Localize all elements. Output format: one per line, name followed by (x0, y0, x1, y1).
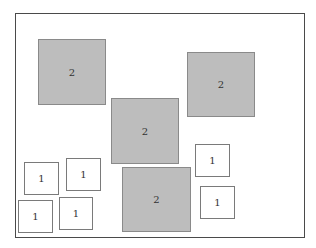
box-label: 1 (38, 173, 44, 184)
box-label: 1 (214, 197, 220, 208)
small-box-4: 1 (59, 197, 93, 230)
large-box-3: 2 (187, 52, 255, 117)
box-label: 1 (73, 208, 79, 219)
box-label: 1 (80, 169, 86, 180)
large-box-4: 2 (122, 167, 191, 232)
box-label: 2 (69, 67, 75, 78)
small-box-6: 1 (200, 186, 235, 219)
small-box-1: 1 (24, 162, 59, 195)
small-box-2: 1 (66, 158, 101, 191)
small-box-3: 1 (18, 200, 53, 233)
box-label: 2 (153, 194, 159, 205)
small-box-5: 1 (195, 144, 230, 177)
box-label: 2 (142, 126, 148, 137)
large-box-1: 2 (38, 39, 106, 105)
box-label: 1 (209, 155, 215, 166)
large-box-2: 2 (111, 98, 179, 164)
box-label: 2 (218, 79, 224, 90)
box-label: 1 (32, 211, 38, 222)
